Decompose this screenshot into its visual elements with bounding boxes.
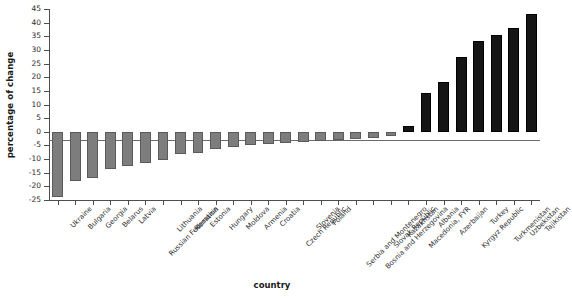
bar <box>298 132 309 142</box>
y-tick-label: 15 <box>31 86 41 95</box>
plot-area: 454035302520151050-5-10-15-20-25 <box>49 9 540 200</box>
bar <box>158 132 169 160</box>
x-axis-tick-labels: UkraineBulgariaGeorgiaBelarusLatviaRussi… <box>0 205 544 280</box>
bar <box>315 132 326 141</box>
bar <box>263 132 274 145</box>
bar <box>333 132 344 140</box>
bar <box>368 132 379 138</box>
bar <box>87 132 98 179</box>
bar <box>52 132 63 197</box>
bar <box>105 132 116 169</box>
y-axis-title: percentage of change <box>0 0 20 210</box>
bar <box>122 132 133 166</box>
bar <box>70 132 81 182</box>
bar <box>280 132 291 143</box>
y-tick-label: 0 <box>36 127 41 136</box>
y-tick-label: -10 <box>29 154 41 163</box>
bar <box>228 132 239 147</box>
bar <box>245 132 256 145</box>
y-tick-label: 40 <box>31 18 41 27</box>
x-axis-title: country <box>0 280 544 290</box>
y-tick-label: -20 <box>29 181 41 190</box>
bar-series <box>49 9 540 200</box>
bar <box>421 93 432 132</box>
bar <box>403 126 414 132</box>
bar <box>456 57 467 131</box>
bar <box>508 28 519 132</box>
y-tick-label: -5 <box>34 140 41 149</box>
bar <box>386 132 397 136</box>
bar <box>210 132 221 149</box>
bar <box>140 132 151 163</box>
bar <box>175 132 186 154</box>
y-tick-label: 30 <box>31 45 41 54</box>
bar <box>193 132 204 153</box>
bar <box>350 132 361 139</box>
y-tick-label: 10 <box>31 100 41 109</box>
y-tick-label: 45 <box>31 4 41 13</box>
y-axis-title-text: percentage of change <box>5 52 15 159</box>
bar <box>473 41 484 132</box>
bar <box>491 35 502 132</box>
y-tick-label: 20 <box>31 72 41 81</box>
y-tick-label: -25 <box>29 195 41 204</box>
y-tick-label: -15 <box>29 168 41 177</box>
bar <box>526 14 537 132</box>
y-tick-label: 5 <box>36 113 41 122</box>
bar <box>438 82 449 132</box>
y-tick-label: 25 <box>31 59 41 68</box>
y-tick-label: 35 <box>31 31 41 40</box>
